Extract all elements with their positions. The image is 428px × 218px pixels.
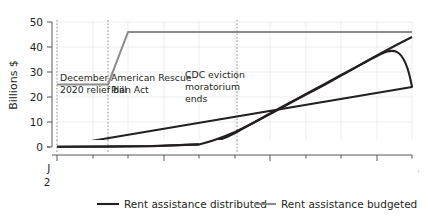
annotation-american-rescue-plan-act: American Rescue Plan Act <box>111 72 192 95</box>
y-tick-label-0: 0 <box>36 141 43 153</box>
chart-legend: Rent assistance distributed Rent assista… <box>97 198 417 210</box>
annotation-december-line-1: December <box>60 72 108 83</box>
y-axis-tick-labels: 50 40 30 20 10 0 <box>30 16 43 153</box>
annotation-arpa-line-1: American Rescue <box>111 72 192 83</box>
annotation-arpa-line-2: Plan Act <box>111 84 149 95</box>
chart-svg: 50 40 30 20 10 0 Billions $ Jan. 2021 <box>0 0 428 218</box>
annotation-cdc-line-1: CDC eviction <box>185 69 245 80</box>
legend-label-rent-assistance-distributed: Rent assistance distributed <box>124 198 267 210</box>
y-axis-title: Billions $ <box>7 60 20 110</box>
y-tick-label-50: 50 <box>30 16 43 28</box>
annotation-cdc-line-2: moratorium <box>185 81 240 92</box>
y-tick-label-10: 10 <box>30 116 43 128</box>
annotation-cdc-eviction-moratorium-ends: CDC eviction moratorium ends <box>185 69 245 104</box>
y-axis <box>47 22 52 147</box>
y-tick-label-30: 30 <box>30 66 43 78</box>
y-tick-label-40: 40 <box>30 41 43 53</box>
y-tick-label-20: 20 <box>30 91 43 103</box>
annotation-cdc-line-3: ends <box>185 93 208 104</box>
legend-label-rent-assistance-budgeted: Rent assistance budgeted <box>281 198 417 210</box>
series-line-rent-assistance-distributed-render <box>50 140 418 200</box>
chart-figure: 50 40 30 20 10 0 Billions $ Jan. 2021 <box>0 0 428 218</box>
